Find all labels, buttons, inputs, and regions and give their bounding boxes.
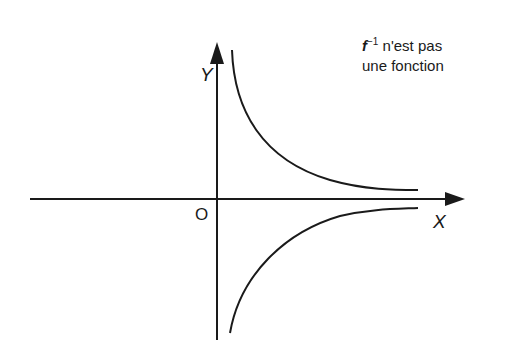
x-axis xyxy=(30,192,465,206)
lower-branch-curve xyxy=(230,208,418,333)
origin-label: O xyxy=(195,205,208,225)
note-line-1: f−1 n'est pas xyxy=(362,32,444,56)
inverse-exponent: −1 xyxy=(367,36,378,47)
note-line-1-text: n'est pas xyxy=(378,37,442,54)
y-axis-arrowhead xyxy=(210,42,224,64)
y-axis-label: Y xyxy=(200,64,213,86)
note-line-2: une fonction xyxy=(362,56,444,76)
x-axis-label: X xyxy=(433,211,446,233)
y-axis xyxy=(210,42,224,340)
inverse-note: f−1 n'est pas une fonction xyxy=(362,32,444,76)
x-axis-arrowhead xyxy=(445,192,465,206)
